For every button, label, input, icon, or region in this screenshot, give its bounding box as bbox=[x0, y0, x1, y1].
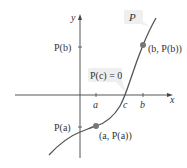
intermediate-value-diagram: P P(c) = 0 x y a c b bbox=[0, 0, 187, 168]
tick-label-pa: P(a) bbox=[54, 122, 71, 134]
tick-label-pb: P(b) bbox=[54, 42, 71, 54]
curve-label-callout: P bbox=[124, 10, 150, 27]
root-label: P(c) = 0 bbox=[90, 70, 122, 82]
x-axis-label: x bbox=[169, 94, 175, 105]
y-axis-label: y bbox=[70, 12, 76, 23]
point-b-label: (b, P(b)) bbox=[148, 43, 182, 55]
curve-label: P bbox=[128, 11, 136, 23]
point-a-label: (a, P(a)) bbox=[99, 130, 132, 142]
point-a bbox=[93, 123, 99, 129]
y-ticks: P(b) P(a) bbox=[54, 42, 82, 134]
y-axis-arrow-icon bbox=[78, 14, 82, 20]
root-label-callout: P(c) = 0 bbox=[88, 68, 126, 93]
tick-label-b: b bbox=[140, 99, 145, 110]
tick-label-a: a bbox=[93, 99, 98, 110]
point-b bbox=[140, 42, 146, 48]
tick-label-c: c bbox=[123, 99, 128, 110]
